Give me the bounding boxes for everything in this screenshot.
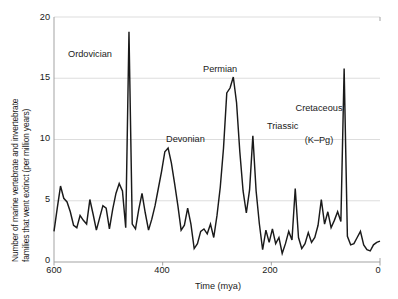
x-axis-label: Time (mya) (158, 281, 278, 291)
y-axis-label-line-1: Number of marine vertebrate and inverteb… (10, 99, 21, 262)
annotation-ordovician: Ordovician (68, 49, 112, 60)
annotation-cretaceous-line-1: Cretaceous (281, 103, 357, 114)
x-tick-label-400: 400 (147, 265, 177, 275)
annotation-devonian: Devonian (166, 134, 205, 145)
y-tick-label-0: 0 (28, 255, 50, 265)
y-tick-label-5: 5 (28, 194, 50, 204)
y-tick-label-20: 20 (28, 12, 50, 22)
annotation-cretaceous-line-2: (K–Pg) (281, 135, 357, 146)
x-tick-label-0: 0 (363, 265, 393, 275)
x-tick-label-200: 200 (255, 265, 285, 275)
extinction-intensity-chart: Number of marine vertebrate and inverteb… (0, 0, 398, 299)
y-axis-label-line-2: families that went extinct (per million … (21, 109, 32, 262)
annotation-permian: Permian (203, 64, 237, 75)
x-tick-label-600: 600 (39, 265, 69, 275)
y-tick-label-15: 15 (28, 72, 50, 82)
y-tick-label-10: 10 (28, 133, 50, 143)
